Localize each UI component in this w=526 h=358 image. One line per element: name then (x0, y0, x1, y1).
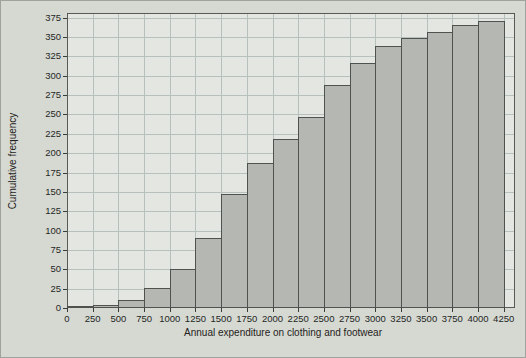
x-tick-label: 1250 (185, 314, 206, 324)
y-axis-title: Cumulative frequency (7, 112, 18, 209)
y-tick-label: 100 (29, 226, 61, 236)
v-gridline (170, 14, 171, 307)
x-tick-label: 2500 (313, 314, 334, 324)
bar-3500-3750 (427, 32, 454, 308)
x-tick (247, 308, 248, 312)
y-tick (63, 37, 67, 38)
y-tick (63, 153, 67, 154)
y-tick-label: 200 (29, 148, 61, 158)
x-tick-label: 0 (64, 314, 69, 324)
bar-1000-1250 (170, 269, 197, 308)
x-tick-label: 3250 (390, 314, 411, 324)
bar-0-250 (67, 306, 94, 308)
y-tick (63, 269, 67, 270)
bar-500-750 (118, 300, 145, 308)
y-tick-label: 150 (29, 187, 61, 197)
y-tick-label: 250 (29, 109, 61, 119)
x-tick (118, 308, 119, 312)
x-tick-label: 500 (110, 314, 126, 324)
x-tick (195, 308, 196, 312)
x-tick (144, 308, 145, 312)
x-tick (504, 308, 505, 312)
bar-1500-1750 (221, 194, 248, 308)
y-tick-label: 75 (29, 245, 61, 255)
y-tick (63, 289, 67, 290)
y-tick-label: 125 (29, 206, 61, 216)
x-tick (273, 308, 274, 312)
bar-3250-3500 (401, 38, 428, 308)
bar-250-500 (93, 305, 120, 308)
x-axis-title: Annual expenditure on clothing and footw… (184, 327, 382, 338)
bar-2500-2750 (324, 85, 351, 308)
x-tick-label: 4250 (493, 314, 514, 324)
bar-3000-3250 (375, 46, 402, 308)
y-tick (63, 211, 67, 212)
x-tick-label: 1000 (159, 314, 180, 324)
x-tick-label: 750 (136, 314, 152, 324)
y-tick (63, 173, 67, 174)
x-tick (170, 308, 171, 312)
h-gridline (68, 18, 514, 19)
x-tick-label: 250 (85, 314, 101, 324)
x-tick-label: 3000 (365, 314, 386, 324)
y-tick-label: 50 (29, 264, 61, 274)
bar-2250-2500 (298, 117, 325, 308)
y-tick-label: 25 (29, 284, 61, 294)
y-tick (63, 76, 67, 77)
x-tick-label: 2250 (288, 314, 309, 324)
v-gridline (144, 14, 145, 307)
y-tick-label: 0 (29, 303, 61, 313)
x-tick-label: 2750 (339, 314, 360, 324)
v-gridline (118, 14, 119, 307)
x-tick-label: 2000 (262, 314, 283, 324)
y-tick (63, 114, 67, 115)
y-tick-label: 350 (29, 32, 61, 42)
x-tick (93, 308, 94, 312)
x-tick (221, 308, 222, 312)
y-tick (63, 231, 67, 232)
y-tick (63, 56, 67, 57)
y-tick-label: 175 (29, 168, 61, 178)
x-tick (375, 308, 376, 312)
x-tick-label: 3750 (442, 314, 463, 324)
x-tick (427, 308, 428, 312)
y-tick-label: 300 (29, 71, 61, 81)
x-tick (478, 308, 479, 312)
bar-1250-1500 (195, 238, 222, 308)
y-tick (63, 134, 67, 135)
x-tick-label: 4000 (467, 314, 488, 324)
y-tick-label: 225 (29, 129, 61, 139)
y-tick (63, 192, 67, 193)
bar-4000-4250 (478, 21, 505, 308)
y-tick (63, 18, 67, 19)
x-tick (401, 308, 402, 312)
y-tick (63, 95, 67, 96)
x-tick-label: 1750 (236, 314, 257, 324)
bar-2000-2250 (273, 139, 300, 308)
x-tick (67, 308, 68, 312)
y-tick-label: 325 (29, 51, 61, 61)
x-tick (298, 308, 299, 312)
bar-750-1000 (144, 288, 171, 308)
cumulative-frequency-chart: Cumulative frequency Annual expenditure … (0, 0, 526, 358)
x-tick-label: 3500 (416, 314, 437, 324)
x-tick (452, 308, 453, 312)
x-tick-label: 1500 (211, 314, 232, 324)
bar-3750-4000 (452, 25, 479, 308)
bar-1750-2000 (247, 163, 274, 308)
y-tick (63, 250, 67, 251)
v-gridline (93, 14, 94, 307)
bar-2750-3000 (350, 63, 377, 308)
x-tick (350, 308, 351, 312)
y-tick-label: 375 (29, 13, 61, 23)
x-tick (324, 308, 325, 312)
y-tick-label: 275 (29, 90, 61, 100)
